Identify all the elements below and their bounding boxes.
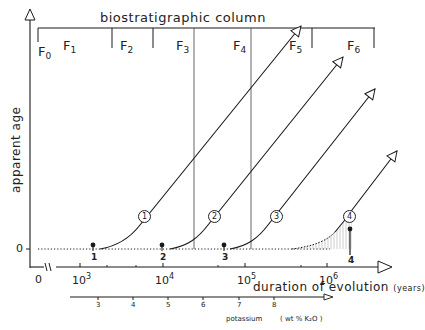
y-axis-title: apparent age [10, 107, 22, 193]
curve-label-3: 3 [270, 210, 283, 223]
y-axis [25, 9, 35, 268]
k-tick-8: 8 [272, 302, 276, 309]
x-axis-title: duration of evolution (years) [253, 281, 425, 293]
k-tick-5: 5 [166, 302, 170, 309]
point-label-2: 2 [160, 253, 166, 262]
facies-f0: F0 [38, 45, 51, 61]
curve-2 [170, 57, 343, 249]
potassium-unit: ( wt % K₂O ) [280, 316, 322, 323]
curve-label-4: 4 [343, 210, 356, 223]
point-label-4: 4 [348, 256, 354, 265]
potassium-title: potassium [226, 316, 262, 323]
potassium-axis [70, 294, 333, 300]
curve-3 [230, 89, 375, 249]
x-tick-1e4: 104 [155, 273, 174, 286]
facies-f5: F5 [289, 39, 302, 55]
point-label-1: 1 [91, 253, 97, 262]
curve-label-2: 2 [208, 210, 221, 223]
sample-points [91, 227, 353, 255]
axis-break-icon [45, 263, 47, 271]
column-title: biostratigraphic column [100, 11, 266, 24]
facies-f2: F2 [120, 39, 133, 55]
curve-label-1: 1 [138, 210, 151, 223]
facies-f4: F4 [233, 39, 246, 55]
facies-f1: F1 [63, 39, 76, 55]
biostratigraphic-column [38, 28, 375, 249]
x-axis-arrow-icon [378, 261, 392, 273]
point-label-3: 3 [222, 253, 228, 262]
facies-f6: F6 [347, 39, 360, 55]
y-axis-arrow-icon [25, 9, 35, 20]
k-tick-7: 7 [237, 302, 241, 309]
facies-f3: F3 [176, 39, 189, 55]
k-tick-4: 4 [131, 302, 135, 309]
x-tick-1e3: 103 [72, 273, 91, 286]
y-zero-label: 0 [16, 243, 23, 254]
k-tick-6: 6 [201, 302, 205, 309]
x-origin-label: 0 [35, 274, 42, 285]
k-tick-3: 3 [96, 302, 100, 309]
